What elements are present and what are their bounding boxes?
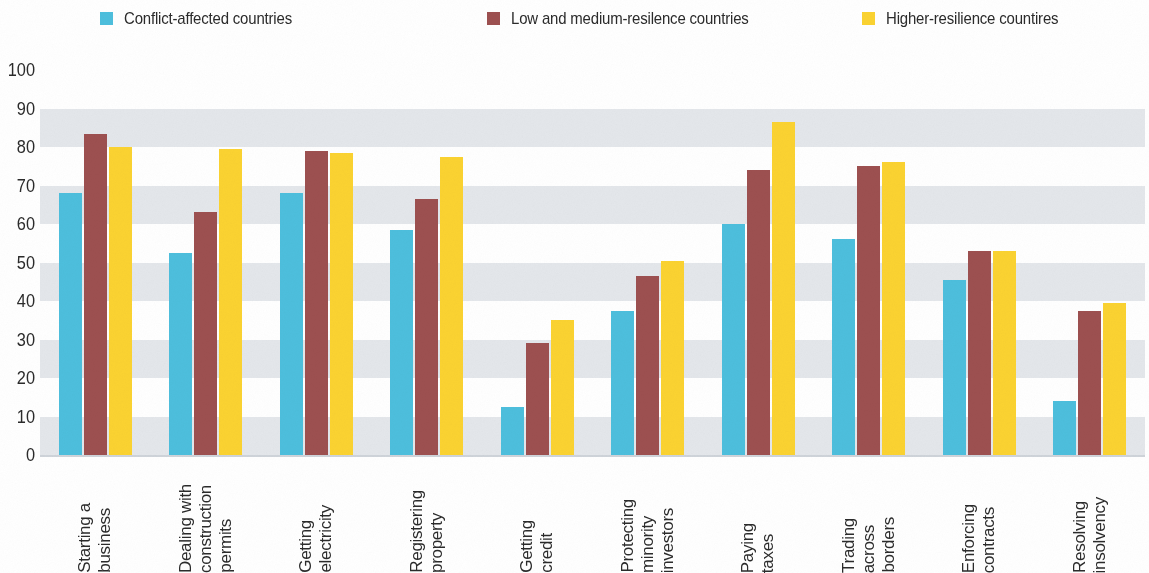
bar[interactable] [84, 134, 107, 455]
plot-area: 0102030405060708090100 [0, 46, 1149, 466]
bar[interactable] [526, 343, 549, 455]
bar[interactable] [968, 251, 991, 455]
x-axis-tick-label-line: taxes [758, 534, 778, 573]
y-axis-tick-label: 30 [4, 330, 35, 349]
y-axis-tick-label: 20 [4, 368, 35, 387]
plot-canvas [40, 70, 1145, 455]
bar-group [814, 70, 925, 455]
bar-group [151, 70, 262, 455]
bar[interactable] [501, 407, 524, 455]
x-axis-group: Registeringproperty [372, 468, 483, 573]
bar[interactable] [943, 280, 966, 455]
bar[interactable] [390, 230, 413, 455]
bar[interactable] [747, 170, 770, 455]
x-axis-tick-label-line: credit [537, 533, 557, 573]
bar-group [1035, 70, 1146, 455]
bar[interactable] [1078, 311, 1101, 455]
bar[interactable] [722, 224, 745, 455]
bar[interactable] [440, 157, 463, 455]
x-axis-tick-label-line: investors [658, 508, 678, 573]
x-axis-group: Enforcingcontracts [924, 468, 1035, 573]
x-axis-group: Resolvinginsolvency [1035, 468, 1146, 573]
bar-series-container [40, 70, 1145, 455]
bar[interactable] [109, 147, 132, 455]
x-axis-tick-label-line: permits [216, 519, 236, 573]
x-axis-tick-label-line: business [95, 508, 115, 573]
x-axis-tick-label-line: electricity [316, 505, 336, 573]
x-axis-group: Gettingelectricity [261, 468, 372, 573]
bar[interactable] [330, 153, 353, 455]
bar-chart-figure: Conflict-affected countries Low and medi… [0, 0, 1149, 573]
bar[interactable] [169, 253, 192, 455]
y-axis-tick-label: 60 [4, 214, 35, 233]
bar[interactable] [832, 239, 855, 455]
bar[interactable] [280, 193, 303, 455]
bar[interactable] [551, 320, 574, 455]
x-axis-tick-label-line: Resolving [1070, 501, 1090, 573]
x-axis-tick-label-line: borders [879, 517, 899, 573]
x-axis-tick-label: Dealing withconstructionpermits [176, 468, 236, 573]
bar[interactable] [857, 166, 880, 455]
x-axis-tick-label-line: Registering [407, 490, 427, 573]
x-axis-tick-label-line: Getting [296, 520, 316, 573]
bar[interactable] [1103, 303, 1126, 455]
x-axis-tick-label-line: property [427, 513, 447, 573]
x-axis-tick-label-line: Paying [738, 523, 758, 573]
x-axis-tick-label-line: minority [638, 516, 658, 573]
x-axis-tick-label: Gettingelectricity [296, 468, 336, 573]
x-axis-tick-label-line: Dealing with [176, 484, 196, 573]
bar[interactable] [993, 251, 1016, 455]
x-axis-tick-label-line: Trading [839, 518, 859, 573]
bar[interactable] [415, 199, 438, 455]
legend-label-series-1: Low and medium-resilence countries [511, 10, 749, 27]
y-axis-tick-label: 70 [4, 176, 35, 195]
bar[interactable] [611, 311, 634, 455]
x-axis-tick-label-line: across [859, 525, 879, 573]
bar[interactable] [59, 193, 82, 455]
x-axis-tick-label-line: Enforcing [959, 504, 979, 573]
y-axis-tick-label: 80 [4, 137, 35, 156]
bar-group [40, 70, 151, 455]
x-axis-tick-label-line: insolvency [1090, 497, 1110, 573]
bar-group [924, 70, 1035, 455]
x-axis-tick-label: Gettingcredit [517, 468, 557, 573]
bar[interactable] [1053, 401, 1076, 455]
legend-swatch-icon-series-1 [487, 12, 500, 25]
bar-group [372, 70, 483, 455]
x-axis: Starting abusinessDealing withconstructi… [40, 468, 1145, 573]
x-axis-group: Tradingacrossborders [814, 468, 925, 573]
bar-group [593, 70, 704, 455]
x-axis-tick-label: Resolvinginsolvency [1070, 468, 1110, 573]
x-axis-tick-label-line: Protecting [618, 499, 638, 573]
x-axis-tick-label-line: Getting [517, 520, 537, 573]
bar[interactable] [636, 276, 659, 455]
bar-group [261, 70, 372, 455]
y-axis-tick-label: 50 [4, 253, 35, 272]
y-axis-tick-label: 90 [4, 99, 35, 118]
bar[interactable] [772, 122, 795, 455]
legend-item-low-and-medium-resilence-countries: Low and medium-resilence countries [487, 10, 781, 27]
x-axis-tick-label-line: construction [196, 485, 216, 573]
x-axis-group: Starting abusiness [40, 468, 151, 573]
x-axis-group: Payingtaxes [703, 468, 814, 573]
x-axis-baseline [40, 455, 1145, 457]
x-axis-tick-label-line: Starting a [75, 503, 95, 573]
x-axis-group: Dealing withconstructionpermits [151, 468, 262, 573]
x-axis-tick-label: Payingtaxes [738, 468, 778, 573]
bar[interactable] [661, 261, 684, 455]
bar[interactable] [219, 149, 242, 455]
x-axis-tick-label: Tradingacrossborders [839, 468, 899, 573]
legend-swatch-icon-series-2 [862, 12, 875, 25]
x-axis-group: Gettingcredit [482, 468, 593, 573]
bar-group [703, 70, 814, 455]
legend-swatch-icon-series-0 [100, 12, 113, 25]
legend-label-series-2: Higher-resilience countires [886, 10, 1058, 27]
bar[interactable] [194, 212, 217, 455]
x-axis-tick-label: Starting abusiness [75, 468, 115, 573]
bar[interactable] [882, 162, 905, 455]
bar-group [482, 70, 593, 455]
x-axis-tick-label: Registeringproperty [407, 468, 447, 573]
x-axis-tick-label: Enforcingcontracts [959, 468, 999, 573]
x-axis-group: Protectingminorityinvestors [593, 468, 704, 573]
bar[interactable] [305, 151, 328, 455]
